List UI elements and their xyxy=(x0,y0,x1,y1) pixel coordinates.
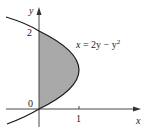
region-diagram: y x 2 0 1 x = 2y − y2 xyxy=(0,0,145,129)
x-axis-arrow-icon xyxy=(133,107,141,112)
tick-label-origin: 0 xyxy=(28,98,33,109)
y-axis-arrow-icon xyxy=(37,7,42,15)
y-axis-label: y xyxy=(28,5,34,16)
equation-label: x = 2y − y2 xyxy=(75,38,121,50)
x-axis-label: x xyxy=(135,115,141,126)
tick-label-x-1: 1 xyxy=(76,113,81,124)
tick-label-y-2: 2 xyxy=(27,27,32,38)
